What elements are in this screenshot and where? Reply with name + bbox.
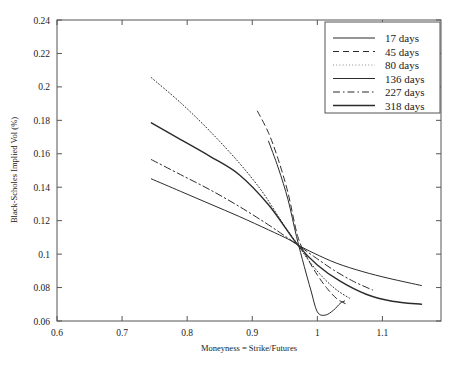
y-tick-label: 0.18	[33, 116, 50, 126]
legend-label-80-days: 80 days	[385, 59, 419, 71]
y-tick-label: 0.22	[33, 49, 50, 59]
y-tick-label: 0.24	[33, 16, 50, 26]
chart-legend: 17 days45 days80 days136 days227 days318…	[325, 22, 440, 113]
volatility-smile-chart: 0.60.70.80.911.1 0.060.080.10.120.140.16…	[0, 0, 466, 371]
chart-figure: 0.60.70.80.911.1 0.060.080.10.120.140.16…	[0, 0, 466, 371]
y-tick-label: 0.1	[38, 250, 50, 260]
legend-label-136-days: 136 days	[385, 73, 424, 85]
x-tick-label: 0.7	[116, 328, 128, 338]
legend-label-318-days: 318 days	[385, 100, 424, 112]
legend-label-17-days: 17 days	[385, 32, 419, 44]
y-tick-label: 0.12	[33, 216, 50, 226]
y-tick-label: 0.16	[33, 149, 50, 159]
y-tick-label: 0.14	[33, 183, 50, 193]
y-tick-label: 0.08	[33, 283, 50, 293]
y-tick-label: 0.2	[38, 82, 50, 92]
x-tick-label: 1	[315, 328, 320, 338]
x-axis-label: Moneyness = Strike/Futures	[201, 343, 297, 353]
legend-label-227-days: 227 days	[385, 86, 424, 98]
y-axis-label: Black-Scholes Implied Vol (%)	[9, 117, 19, 223]
x-tick-label: 1.1	[376, 328, 388, 338]
y-tick-label: 0.06	[33, 317, 50, 327]
x-tick-label: 0.8	[181, 328, 193, 338]
x-tick-label: 0.6	[51, 328, 63, 338]
legend-label-45-days: 45 days	[385, 46, 419, 58]
x-tick-label: 0.9	[246, 328, 258, 338]
